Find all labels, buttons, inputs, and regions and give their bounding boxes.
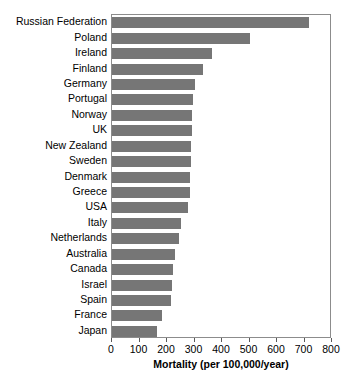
plot-area	[111, 14, 331, 338]
bar-row	[112, 94, 332, 105]
bar	[112, 110, 192, 121]
bar	[112, 202, 188, 213]
bar	[112, 125, 192, 136]
bar-row	[112, 295, 332, 306]
bar-row	[112, 264, 332, 275]
bar-row	[112, 280, 332, 291]
x-tick-label: 800	[316, 343, 346, 355]
x-tick	[111, 338, 112, 342]
bar-row	[112, 172, 332, 183]
bar	[112, 187, 190, 198]
bar-row	[112, 141, 332, 152]
bar	[112, 295, 171, 306]
category-label: Russian Federation	[0, 16, 107, 27]
x-tick	[276, 338, 277, 342]
bar	[112, 326, 157, 337]
category-label: Sweden	[0, 155, 107, 166]
bar-chart: Russian FederationPolandIrelandFinlandGe…	[0, 0, 356, 388]
bar-row	[112, 310, 332, 321]
bar	[112, 172, 190, 183]
x-tick	[166, 338, 167, 342]
x-axis: Mortality (per 100,000/year) 01002003004…	[111, 338, 331, 388]
category-label: Australia	[0, 248, 107, 259]
x-tick-label: 600	[261, 343, 291, 355]
bar	[112, 79, 195, 90]
category-label: Portugal	[0, 93, 107, 104]
category-label: Greece	[0, 186, 107, 197]
x-tick	[249, 338, 250, 342]
x-tick	[304, 338, 305, 342]
x-tick-label: 0	[96, 343, 126, 355]
bar-row	[112, 33, 332, 44]
category-label: USA	[0, 201, 107, 212]
bar-row	[112, 326, 332, 337]
bar-row	[112, 17, 332, 28]
x-tick-label: 400	[206, 343, 236, 355]
category-label: Japan	[0, 325, 107, 336]
category-label: Canada	[0, 263, 107, 274]
x-tick-label: 200	[151, 343, 181, 355]
bar	[112, 94, 193, 105]
bar	[112, 17, 309, 28]
category-label: Israel	[0, 279, 107, 290]
category-label: Netherlands	[0, 232, 107, 243]
bar-row	[112, 48, 332, 59]
x-tick-label: 100	[124, 343, 154, 355]
category-label: Denmark	[0, 171, 107, 182]
x-tick-label: 500	[234, 343, 264, 355]
bar	[112, 310, 162, 321]
bar	[112, 218, 181, 229]
category-axis-labels: Russian FederationPolandIrelandFinlandGe…	[0, 14, 107, 338]
category-label: Germany	[0, 78, 107, 89]
category-label: Italy	[0, 217, 107, 228]
bar	[112, 156, 191, 167]
category-label: New Zealand	[0, 140, 107, 151]
category-label: UK	[0, 124, 107, 135]
bar	[112, 33, 250, 44]
bar-row	[112, 233, 332, 244]
category-label: Finland	[0, 63, 107, 74]
bar	[112, 64, 203, 75]
category-label: Ireland	[0, 47, 107, 58]
x-tick	[331, 338, 332, 342]
bar-row	[112, 187, 332, 198]
category-label: Spain	[0, 294, 107, 305]
bar-row	[112, 202, 332, 213]
bar	[112, 233, 179, 244]
bar	[112, 48, 212, 59]
bar	[112, 249, 175, 260]
bar	[112, 280, 172, 291]
bar-row	[112, 64, 332, 75]
bar-row	[112, 125, 332, 136]
x-axis-title: Mortality (per 100,000/year)	[111, 358, 331, 370]
bar-row	[112, 79, 332, 90]
category-label: Poland	[0, 32, 107, 43]
x-tick	[221, 338, 222, 342]
bar	[112, 141, 191, 152]
x-tick	[194, 338, 195, 342]
category-label: France	[0, 309, 107, 320]
bar-row	[112, 249, 332, 260]
bar-row	[112, 218, 332, 229]
bar-row	[112, 156, 332, 167]
bar-row	[112, 110, 332, 121]
x-tick-label: 300	[179, 343, 209, 355]
category-label: Norway	[0, 109, 107, 120]
bar	[112, 264, 173, 275]
x-tick-label: 700	[289, 343, 319, 355]
x-tick	[139, 338, 140, 342]
